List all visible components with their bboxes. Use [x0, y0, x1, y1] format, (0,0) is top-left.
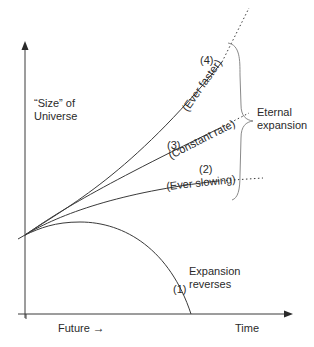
eternal-expansion-label: Eternal expansion — [257, 106, 307, 132]
x-axis-arrowhead — [284, 311, 293, 318]
x-axis-future-label: Future → — [58, 322, 105, 335]
curve-1-number: (1) — [173, 283, 186, 296]
brace-label-line2: expansion — [257, 119, 307, 132]
brace-label-line1: Eternal — [257, 106, 307, 119]
y-axis-label-line2: Universe — [34, 110, 77, 123]
future-text: Future — [58, 322, 90, 334]
curve-1-label-line1: Expansion — [189, 265, 240, 278]
y-axis-label: “Size” of Universe — [34, 97, 77, 123]
expansion-diagram — [0, 0, 314, 347]
curve-1-label: Expansion reverses — [189, 265, 240, 291]
curve-1-expansion-reverses — [18, 222, 191, 314]
y-axis-arrowhead — [22, 41, 29, 50]
y-axis-label-line1: “Size” of — [34, 97, 77, 110]
right-arrow-icon: → — [93, 321, 105, 335]
curve-2-number: (2) — [199, 163, 212, 176]
curve-1-label-line2: reverses — [189, 278, 240, 291]
curve-4-extrapolation — [222, 8, 249, 62]
x-axis-time-label: Time — [235, 322, 259, 335]
